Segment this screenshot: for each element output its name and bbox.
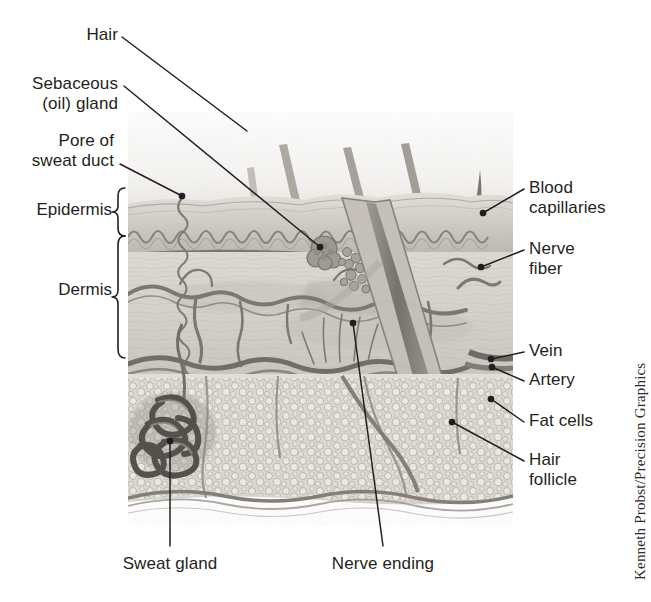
label-pore-of-sweat-duct: Pore of sweat duct [0,131,114,171]
label-nerve-fiber: Nerve fiber [529,239,575,279]
label-nerve-ending: Nerve ending [330,554,436,574]
label-blood-capillaries: Blood capillaries [529,178,606,218]
label-vein: Vein [529,341,563,361]
illustration-body [128,112,513,525]
label-hair: Hair [10,25,118,45]
label-dermis: Dermis [0,280,112,300]
skin-cross-section-illustration [128,112,513,525]
label-fat-cells: Fat cells [529,411,593,431]
label-sebaceous-gland: Sebaceous (oil) gland [0,74,118,114]
brace-epidermis [112,188,125,236]
figure-root: Hair Sebaceous (oil) gland Pore of sweat… [0,0,651,602]
label-epidermis: Epidermis [0,200,112,220]
label-sweat-gland: Sweat gland [117,554,223,574]
illustration-credit: Kenneth Probst/Precision Graphics [632,363,649,580]
label-artery: Artery [529,370,575,390]
brace-dermis [112,236,125,358]
label-hair-follicle: Hair follicle [529,450,577,490]
